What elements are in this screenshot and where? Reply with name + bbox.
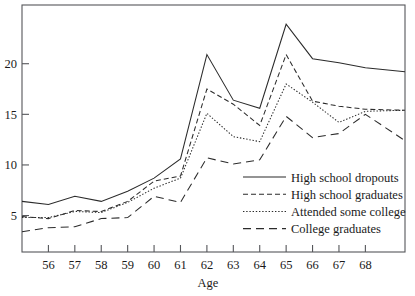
x-tick-label: 56 [42,258,55,272]
x-axis-ticks [48,245,365,252]
x-axis-tick-labels: 56575859606162636465666768 [42,258,371,272]
x-tick-label: 67 [333,258,346,272]
x-tick-label: 68 [359,258,372,272]
x-tick-label: 61 [174,258,187,272]
x-tick-label: 66 [306,258,319,272]
legend-label: College graduates [291,222,381,236]
legend-label: Attended some college [291,205,406,219]
x-tick-label: 63 [227,258,240,272]
chart-canvas: 5101520 56575859606162636465666768 Age H… [0,0,415,296]
x-tick-label: 59 [121,258,134,272]
chart-legend: High school dropoutsHigh school graduate… [243,171,406,237]
line-chart: 5101520 56575859606162636465666768 Age H… [0,0,415,296]
y-tick-label: 10 [5,158,18,172]
legend-label: High school graduates [291,188,403,202]
x-axis-label: Age [198,276,219,290]
x-tick-label: 57 [69,258,82,272]
x-tick-label: 65 [280,258,293,272]
legend-label: High school dropouts [291,171,399,185]
y-axis-ticks [22,64,29,216]
x-tick-label: 58 [95,258,108,272]
y-axis-tick-labels: 5101520 [5,57,18,223]
x-tick-label: 62 [201,258,214,272]
x-tick-label: 64 [253,258,266,272]
x-tick-label: 60 [148,258,161,272]
y-tick-label: 20 [5,57,18,71]
y-tick-label: 5 [11,209,17,223]
y-tick-label: 15 [5,108,18,122]
